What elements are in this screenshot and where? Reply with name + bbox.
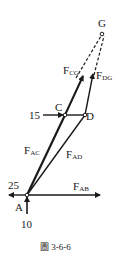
label-g: G [98,17,106,29]
force-fcg-arrow [65,76,83,115]
label-fcg: FCG [63,64,79,77]
force-fdg-arrow [85,74,93,115]
point-a [25,193,29,197]
point-g [100,32,104,36]
label-fac: FAC [24,144,40,157]
label-fab: FAB [73,180,89,193]
label-fdg: FDG [96,69,112,82]
label-c: C [55,101,62,113]
free-body-diagram: G C D A 15 25 10 FCG FDG FAC FAD FAB 圖 3… [0,0,127,257]
label-15: 15 [29,109,41,121]
label-d: D [86,110,94,122]
figure-caption: 圖 3-6-6 [40,242,71,252]
label-10: 10 [21,218,33,230]
point-c [63,113,67,117]
label-a: A [15,201,23,213]
label-fad: FAD [66,148,82,161]
label-25: 25 [8,179,20,191]
